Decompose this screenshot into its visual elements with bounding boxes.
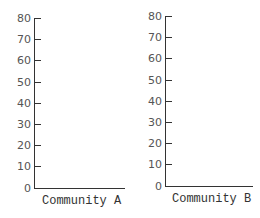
y-tick-label: 50 [142,75,162,86]
y-tick-label: 30 [11,119,31,130]
y-tick-label: 70 [11,34,31,45]
y-tick-label: 40 [142,96,162,107]
y-tick [34,103,41,104]
y-tick-label: 60 [11,55,31,66]
x-axis [165,186,253,187]
y-tick [34,60,41,61]
y-tick-label: 60 [142,53,162,64]
y-tick [34,124,41,125]
y-tick-label: 0 [142,181,162,192]
y-tick [165,16,172,17]
chart-community-a: 80 70 60 50 40 30 20 10 0 Community A [0,0,130,218]
x-axis-label: Community A [42,194,121,208]
y-tick-label: 10 [11,161,31,172]
y-tick [165,122,172,123]
y-tick [165,80,172,81]
y-tick [34,82,41,83]
y-tick-label: 10 [142,159,162,170]
chart-community-b: 80 70 60 50 40 30 20 10 0 Community B [130,0,260,218]
y-tick [34,39,41,40]
y-tick-label: 80 [11,13,31,24]
y-tick-label: 50 [11,77,31,88]
y-tick [165,58,172,59]
y-tick-label: 20 [142,138,162,149]
y-tick-label: 80 [142,11,162,22]
x-axis [34,188,125,189]
x-axis-label: Community B [172,192,251,206]
y-tick-label: 20 [11,140,31,151]
y-tick-label: 0 [11,183,31,194]
y-tick [34,166,41,167]
y-tick [165,37,172,38]
y-tick-label: 40 [11,98,31,109]
y-tick [165,143,172,144]
y-tick [34,18,41,19]
y-tick [165,164,172,165]
y-tick [34,145,41,146]
y-tick-label: 30 [142,117,162,128]
y-tick-label: 70 [142,32,162,43]
y-tick [165,101,172,102]
